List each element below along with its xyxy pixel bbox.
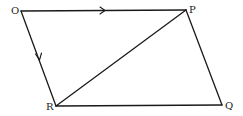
vertex-label-O: O — [11, 5, 19, 16]
vertex-label-Q: Q — [225, 100, 233, 111]
edge-PQ — [186, 10, 222, 105]
vertex-label-P: P — [189, 4, 196, 15]
diagonal-RP — [56, 10, 186, 106]
edge-OP — [21, 10, 186, 11]
parallelogram-diagram: O P Q R — [0, 0, 243, 116]
edge-RQ — [56, 105, 222, 106]
vertex-label-R: R — [46, 101, 54, 112]
